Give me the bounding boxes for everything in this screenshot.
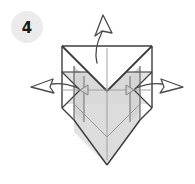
arrow-up-head — [95, 15, 112, 36]
arrow-left-head — [31, 79, 54, 93]
step-badge: 4 — [11, 11, 43, 43]
folded-paper-model — [62, 44, 152, 165]
origami-diagram-canvas: 4 — [0, 0, 195, 184]
arrow-right-head — [160, 79, 183, 93]
origami-figure: 4 — [0, 0, 195, 184]
step-badge-number: 4 — [22, 19, 32, 37]
